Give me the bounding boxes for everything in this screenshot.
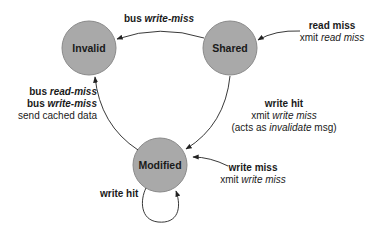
label-write-hit-invalidate: write hit xmit write miss (acts as inval… xyxy=(214,98,354,134)
state-shared-label: Shared xyxy=(200,42,260,54)
label-self-loop-write-hit: write hit xyxy=(100,188,138,200)
label-write-miss: write miss xmit write miss xyxy=(218,162,288,186)
label-read-miss: read miss xmit read miss xyxy=(292,20,372,44)
label-bus-write-miss: bus write-miss xyxy=(124,13,194,25)
state-modified-label: Modified xyxy=(130,159,190,171)
edge-shared-to-invalid xyxy=(117,31,204,39)
edge-modified-to-invalid xyxy=(95,77,138,150)
edge-modified-self-loop xyxy=(142,188,178,222)
state-invalid-label: Invalid xyxy=(59,42,119,54)
label-modified-to-invalid: bus read-miss bus write-miss send cached… xyxy=(0,86,97,122)
